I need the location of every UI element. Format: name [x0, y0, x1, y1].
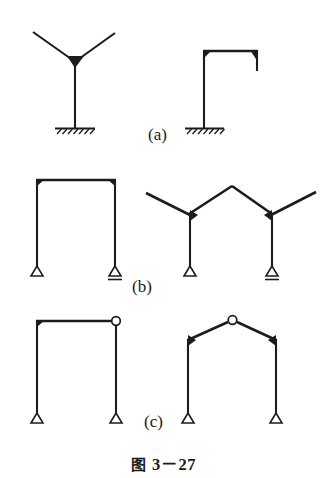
rafter-overhang-right [271, 192, 316, 215]
figure-canvas: (a) [0, 0, 335, 478]
rafter-left [188, 322, 228, 340]
figure-3-27: (a) [0, 0, 335, 478]
figure-y-branch-fixed-column [33, 32, 115, 134]
rafter-right [232, 186, 272, 214]
fixed-support [55, 129, 95, 135]
hinge-icon [228, 316, 237, 325]
pin-support-left [31, 266, 43, 276]
pin-support-left [182, 413, 194, 423]
caption-cjk-mark: 图 [131, 456, 146, 474]
rafter-overhang-left [146, 193, 190, 215]
fixed-support [185, 129, 225, 135]
pin-triangle [31, 266, 43, 276]
pin-triangle [270, 413, 282, 423]
rigid-joint-haunch-left [37, 320, 45, 327]
support-hatching [187, 129, 225, 134]
pin-triangle [184, 266, 196, 276]
figure-cantilever-beam-fixed-column [185, 50, 258, 134]
figure-rigid-portal-frame [31, 179, 122, 280]
row-label-a: (a) [148, 125, 167, 144]
figure-portal-frame-corner-hinge [31, 317, 122, 423]
figure-gabled-frame-apex-hinge [182, 316, 282, 423]
figure-gabled-frame-with-overhangs [146, 186, 316, 280]
pin-triangle [266, 266, 278, 276]
caption-number: 3－27 [152, 455, 196, 474]
pin-support-left [184, 266, 196, 276]
row-label-c: (c) [144, 412, 163, 431]
pin-triangle [109, 266, 121, 276]
pin-support-right [110, 413, 122, 423]
rafter-left [189, 186, 232, 214]
pin-triangle [31, 413, 43, 423]
rafter-right [237, 322, 276, 340]
support-hatching [57, 129, 95, 134]
pin-triangle [110, 413, 122, 423]
row-label-b: (b) [132, 277, 152, 296]
pin-support-right [270, 413, 282, 423]
figure-caption: 图 3－27 [131, 455, 196, 474]
hinge-icon [112, 317, 121, 326]
pin-triangle [182, 413, 194, 423]
roller-support-right [108, 266, 122, 280]
roller-support-right [265, 266, 279, 280]
pin-support-left [31, 413, 43, 423]
